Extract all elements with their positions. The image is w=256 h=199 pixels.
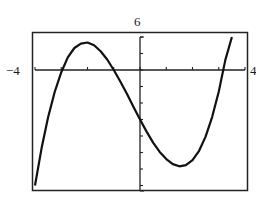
plot-area bbox=[0, 0, 256, 199]
function-curve bbox=[35, 37, 232, 186]
